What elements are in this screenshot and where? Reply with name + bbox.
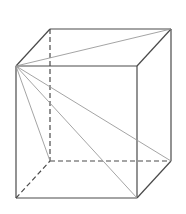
- diagonal-to-back-bottom-right: [16, 66, 171, 161]
- top-right-connector: [137, 29, 171, 66]
- bottom-right-connector: [137, 161, 171, 198]
- diagonal-to-back-bottom-left: [16, 66, 50, 161]
- diagonal-to-back-top-right: [16, 29, 171, 66]
- hidden-bottom-left-connector: [16, 161, 50, 198]
- cube-diagram: [0, 0, 186, 214]
- top-left-connector: [16, 29, 50, 66]
